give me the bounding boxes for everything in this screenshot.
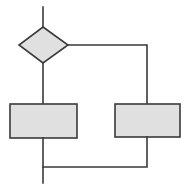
right-merge-connector [43,137,147,167]
decision-to-right-connector [68,45,147,104]
decision-diamond [19,27,68,63]
flowchart-diagram [0,0,189,194]
process-box-left [10,104,77,138]
process-box-right [115,104,180,137]
